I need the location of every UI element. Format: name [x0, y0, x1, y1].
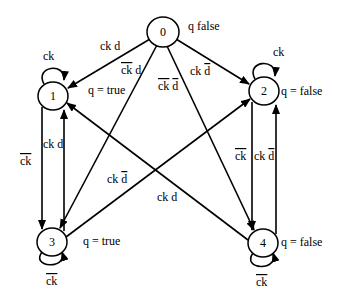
- edge-label-0-1: ck d: [100, 39, 120, 53]
- edge-label-2-4: ck: [235, 149, 246, 163]
- edge-label-1-1: ck: [43, 49, 54, 63]
- node-label-3: 3: [49, 235, 55, 249]
- edge-label-4-4: ck: [256, 275, 267, 289]
- edge-label-0-3: ck d: [121, 63, 141, 77]
- edge-4-1: [67, 103, 248, 240]
- node-label-2: 2: [261, 84, 267, 98]
- edge-label-4-1: ck d: [157, 190, 177, 204]
- edge-3-2: [66, 99, 250, 237]
- edge-label-4-2: ck d: [254, 149, 274, 163]
- edge-label-0-4: ck d: [158, 79, 178, 93]
- edge-label-2-2: ck: [273, 45, 284, 59]
- edge-0-3: [60, 45, 157, 228]
- output-label-1: q = true: [88, 83, 125, 97]
- output-label-3: q = true: [83, 234, 120, 248]
- node-label-4: 4: [260, 236, 266, 250]
- state-diagram: 0 1 2 3 4 q false q = true q = false q =…: [0, 0, 341, 303]
- edge-label-3-1: ck d: [43, 137, 63, 151]
- edge-label-0-2: ck d: [190, 64, 210, 78]
- edge-0-4: [167, 46, 254, 230]
- output-label-0: q false: [188, 19, 220, 33]
- edge-label-1-3: ck: [20, 154, 31, 168]
- node-label-0: 0: [160, 25, 166, 39]
- edge-label-3-2: ck d: [107, 172, 127, 186]
- output-label-2: q = false: [281, 84, 322, 98]
- edge-0-2: [176, 39, 249, 84]
- node-label-1: 1: [50, 89, 56, 103]
- edge-label-3-3: ck: [46, 274, 57, 288]
- output-label-4: q = false: [281, 235, 322, 249]
